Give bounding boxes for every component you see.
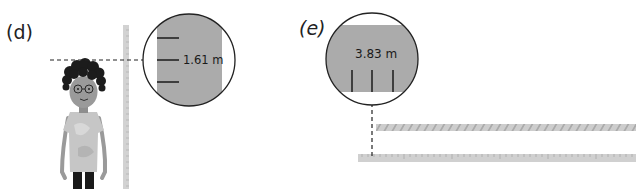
horizontal-ruler [358, 154, 636, 162]
measurement-e: 3.83 m [355, 47, 397, 61]
hatched-bar [376, 124, 636, 131]
panel-e-illustration [0, 0, 636, 189]
